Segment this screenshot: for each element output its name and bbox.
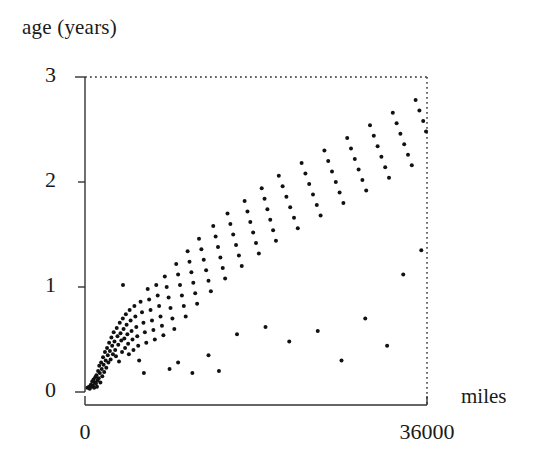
data-point <box>368 123 372 127</box>
data-point <box>387 176 391 180</box>
data-point <box>211 224 215 228</box>
data-point <box>385 344 389 348</box>
data-point <box>180 293 184 297</box>
data-point <box>129 319 133 323</box>
data-point <box>140 310 144 314</box>
data-point <box>176 361 180 365</box>
data-point <box>349 146 353 150</box>
data-point <box>128 308 132 312</box>
data-point <box>395 121 399 125</box>
data-point <box>263 197 267 201</box>
data-point <box>102 370 106 374</box>
data-point <box>383 165 387 169</box>
data-point <box>379 155 383 159</box>
data-point <box>221 266 225 270</box>
data-point <box>251 230 255 234</box>
data-point <box>143 330 147 334</box>
data-point <box>315 203 319 207</box>
data-point <box>364 188 368 192</box>
data-point <box>284 195 288 199</box>
data-point <box>265 207 269 211</box>
data-point <box>334 180 338 184</box>
data-point <box>186 249 190 253</box>
data-point <box>107 341 111 345</box>
data-point <box>110 344 114 348</box>
data-point <box>296 226 300 230</box>
data-point <box>410 163 414 167</box>
data-point <box>190 371 194 375</box>
data-point <box>184 314 188 318</box>
data-point <box>156 293 160 297</box>
data-point <box>101 355 105 359</box>
data-point <box>141 321 145 325</box>
data-point-layer <box>85 98 428 391</box>
data-point <box>170 317 174 321</box>
data-point <box>169 306 173 310</box>
data-point <box>243 199 247 203</box>
data-point <box>287 340 291 344</box>
data-point <box>122 336 126 340</box>
data-point <box>237 254 241 258</box>
data-point <box>300 161 304 165</box>
data-point <box>214 235 218 239</box>
data-point <box>131 348 135 352</box>
data-point <box>271 228 275 232</box>
data-point <box>322 149 326 153</box>
data-point <box>191 281 195 285</box>
data-point <box>137 359 141 363</box>
data-point <box>122 327 126 331</box>
data-point <box>124 312 128 316</box>
data-point <box>114 354 118 358</box>
data-point <box>424 130 428 134</box>
data-point <box>193 291 197 295</box>
data-point <box>108 349 112 353</box>
data-point <box>357 167 361 171</box>
data-point <box>144 341 148 345</box>
data-point <box>165 285 169 289</box>
data-point <box>121 283 125 287</box>
data-point <box>109 335 113 339</box>
data-point <box>133 314 137 318</box>
data-point <box>257 251 261 255</box>
data-point <box>154 283 158 287</box>
data-point <box>254 241 258 245</box>
data-point <box>274 239 278 243</box>
data-point <box>207 279 211 283</box>
data-point <box>341 201 345 205</box>
data-point <box>126 342 130 346</box>
data-point <box>103 350 107 354</box>
data-point <box>307 182 311 186</box>
data-point <box>104 366 108 370</box>
plot-area <box>0 0 547 464</box>
data-point <box>218 256 222 260</box>
data-point <box>330 170 334 174</box>
data-point <box>149 308 153 312</box>
data-point <box>178 283 182 287</box>
data-point <box>97 376 101 380</box>
data-point <box>402 142 406 146</box>
data-point <box>360 178 364 182</box>
data-point <box>340 359 344 363</box>
data-point <box>217 369 221 373</box>
data-point <box>277 174 281 178</box>
data-point <box>245 209 249 213</box>
data-point <box>172 327 176 331</box>
data-point <box>207 353 211 357</box>
data-point <box>127 352 131 356</box>
data-point <box>417 109 421 113</box>
data-point <box>132 304 136 308</box>
data-point <box>363 317 367 321</box>
data-point <box>113 348 117 352</box>
data-point <box>345 136 349 140</box>
data-point <box>199 247 203 251</box>
data-point <box>231 233 235 237</box>
data-point <box>248 220 252 224</box>
data-point <box>209 289 213 293</box>
data-point <box>115 326 119 330</box>
data-point <box>326 159 330 163</box>
data-point <box>419 248 423 252</box>
data-point <box>146 287 150 291</box>
data-point <box>202 258 206 262</box>
data-point <box>150 319 154 323</box>
data-point <box>353 157 357 161</box>
